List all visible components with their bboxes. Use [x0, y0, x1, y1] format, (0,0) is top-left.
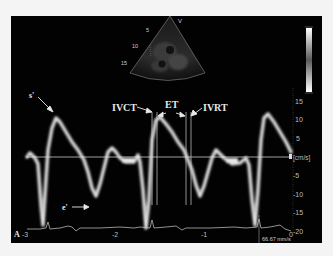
y-tick-neg15: -15 — [293, 209, 303, 216]
x-tick-neg2: -2 — [112, 231, 118, 238]
x-tick-neg3: -3 — [22, 231, 28, 238]
y-tick-10: 10 — [295, 116, 303, 123]
sweep-speed: 66.67 mm/s — [262, 236, 291, 242]
grayscale-bar — [306, 28, 312, 92]
interval-markers — [152, 112, 191, 205]
ivrt-label: IVRT — [203, 103, 228, 113]
y-tick-neg10: -10 — [293, 191, 303, 198]
s-prime-label: s' — [29, 91, 34, 101]
echo-sector-image — [130, 16, 205, 81]
doppler-graphics — [0, 0, 333, 256]
depth-tick-15: 15 — [121, 60, 127, 66]
depth-tick-10: 10 — [132, 43, 138, 49]
y-tick-15: 15 — [295, 98, 303, 105]
y-unit-label: [cm/s] — [293, 154, 310, 161]
panel-label: A — [14, 230, 20, 240]
ecg-trace — [27, 219, 291, 231]
depth-tick-5: 5 — [146, 27, 149, 33]
y-tick-5: 5 — [296, 135, 300, 142]
view-marker: V — [178, 18, 182, 24]
et-label: ET — [165, 100, 178, 110]
annotation-arrows — [38, 97, 202, 210]
ivct-label: IVCT — [112, 103, 137, 113]
x-tick-neg1: -1 — [201, 231, 207, 238]
y-tick-neg20: -20 — [293, 228, 303, 235]
y-tick-neg5: -5 — [293, 172, 299, 179]
e-prime-label: e' — [62, 203, 68, 213]
